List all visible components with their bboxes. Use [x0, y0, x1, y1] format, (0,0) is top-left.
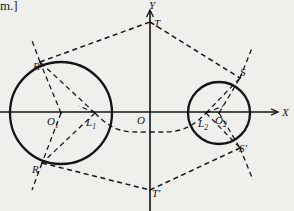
- point-label-R: R: [32, 60, 40, 72]
- geometry-diagram: O1L1OL2O2TT'RR'SS'XY: [0, 0, 294, 211]
- point-dot-Rp: [41, 162, 43, 164]
- point-dot-R: [39, 61, 41, 63]
- point-label-O: O: [137, 114, 145, 126]
- point-label-L2: L2: [197, 117, 208, 132]
- upper-tangent-R-T-S-seg1: [40, 22, 150, 62]
- y-axis-label: Y: [149, 0, 157, 11]
- point-label-S: S: [240, 66, 246, 78]
- O1-to-R: [40, 62, 61, 113]
- lower-tangent-Rp-Tp-Sp-seg2: [150, 148, 240, 190]
- point-dot-L2: [205, 112, 207, 114]
- point-dot-L1: [94, 112, 96, 114]
- point-label-O2: O2: [215, 114, 227, 129]
- cut-off-header-text: m.]: [0, 0, 18, 14]
- lower-tangent-Rp-Tp-Sp-seg1: [42, 163, 150, 190]
- point-dot-Tp: [149, 189, 151, 191]
- R-ray-up: [31, 38, 40, 62]
- figure-canvas: m.] O1L1OL2O2TT'RR'SS'XY: [0, 0, 294, 211]
- point-label-L1: L1: [85, 116, 96, 131]
- point-dot-S: [239, 77, 241, 79]
- point-label-O1: O1: [47, 115, 59, 130]
- point-dot-O2: [218, 112, 220, 114]
- point-label-T: T: [154, 17, 161, 29]
- point-dot-O: [149, 111, 151, 113]
- point-label-Tp: T': [152, 187, 161, 199]
- point-dot-T: [149, 21, 151, 23]
- point-dot-Sp: [239, 147, 241, 149]
- upper-tangent-R-T-S-seg2: [150, 22, 240, 78]
- x-axis-label: X: [281, 106, 290, 118]
- point-label-Rp: R': [31, 163, 42, 175]
- point-dot-O1: [60, 112, 62, 114]
